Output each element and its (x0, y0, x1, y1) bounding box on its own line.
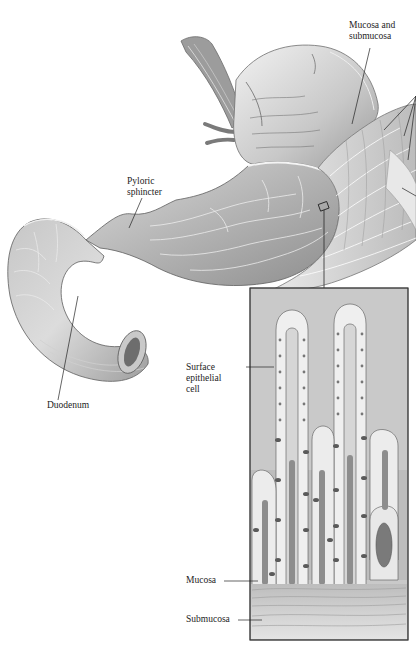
magnified-mucosa-inset (250, 288, 408, 640)
label-line: Submucosa (186, 614, 230, 625)
label-line: cell (186, 384, 221, 395)
label-line: epithelial (186, 373, 221, 384)
esophagus (181, 37, 243, 128)
label-line: Duodenum (47, 400, 89, 411)
label-line: Pyloric (127, 176, 162, 187)
label-duodenum: Duodenum (47, 400, 89, 411)
label-line: submucosa (349, 31, 395, 42)
anatomy-illustration (0, 0, 416, 655)
label-line: Mucosa and (349, 20, 395, 31)
label-surface-epithelial-cell: Surface epithelial cell (186, 362, 221, 395)
label-pyloric-sphincter: Pyloric sphincter (127, 176, 162, 198)
label-line: Surface (186, 362, 221, 373)
label-line: Mucosa (186, 575, 216, 586)
label-submucosa: Submucosa (186, 614, 230, 625)
label-mucosa: Mucosa (186, 575, 216, 586)
label-mucosa-and-submucosa: Mucosa and submucosa (349, 20, 395, 42)
stomach-body (86, 163, 339, 286)
label-line: sphincter (127, 187, 162, 198)
